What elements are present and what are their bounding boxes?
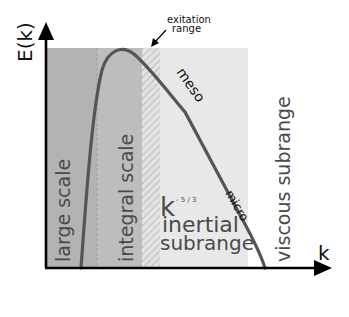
label-viscous-subrange: viscous subrange [272, 96, 294, 262]
annotation-arrow [155, 30, 166, 42]
label-large-scale: large scale [52, 159, 74, 262]
label-integral-scale: integral scale [115, 134, 137, 262]
y-axis-arrow-icon [38, 22, 54, 40]
turbulence-energy-spectrum-diagram: E(k) k exitation range large scale integ… [0, 0, 349, 317]
label-subrange: subrange [160, 231, 254, 255]
power-law-base: k [160, 192, 175, 222]
x-axis-label: k [318, 241, 330, 265]
annotation-line2: range [172, 23, 201, 34]
power-law-exponent: - 5 / 3 [176, 196, 196, 204]
y-axis-label: E(k) [13, 22, 37, 62]
